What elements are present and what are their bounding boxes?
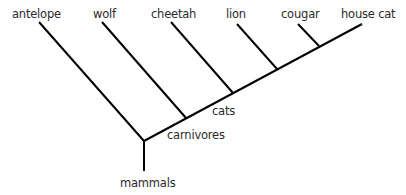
wolf-branch-line <box>102 22 186 118</box>
leaf-label-antelope: antelope <box>12 7 61 21</box>
node-label-cats: cats <box>212 104 235 118</box>
lion-branch-line <box>237 24 277 69</box>
leaf-label-house-cat: house cat <box>341 7 395 21</box>
leaf-label-cheetah: cheetah <box>151 7 196 21</box>
node-label-mammals: mammals <box>120 176 176 190</box>
cheetah-branch-line <box>171 22 233 93</box>
leaf-label-lion: lion <box>226 7 246 21</box>
leaf-label-wolf: wolf <box>93 7 116 21</box>
antelope-branch-line <box>39 22 144 141</box>
cladogram-lines <box>0 0 406 195</box>
leaf-label-cougar: cougar <box>281 7 320 21</box>
node-label-carnivores: carnivores <box>167 128 225 142</box>
cougar-branch-line <box>298 24 319 46</box>
